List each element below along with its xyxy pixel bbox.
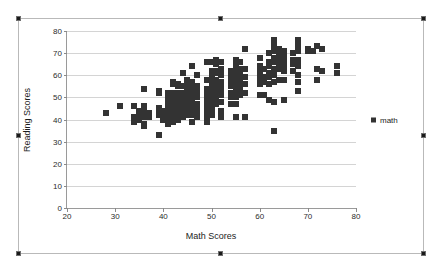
x-tick-label: 60 [255,212,264,221]
y-tick-label: 0 [58,204,62,213]
scatter-point [271,37,277,43]
scatter-point [141,86,147,92]
chart-legend[interactable]: math [371,116,398,125]
scatter-point [209,112,215,118]
y-tick-mark [64,186,67,187]
scatter-point [218,114,224,120]
selection-handle-bottom-left[interactable] [16,251,21,256]
scatter-point [194,72,200,78]
y-tick-mark [64,75,67,76]
scatter-point [334,63,340,69]
y-tick-mark [64,53,67,54]
y-tick-label: 80 [53,27,62,36]
y-tick-mark [64,142,67,143]
scatter-point [242,74,248,80]
chart-object[interactable]: Reading Scores Math Scores 0102030405060… [18,18,424,254]
y-axis-title: Reading Scores [22,88,32,152]
y-tick-label: 30 [53,137,62,146]
scatter-point [233,114,239,120]
scatter-point [281,97,287,103]
scatter-point [103,110,109,116]
y-tick-label: 70 [53,49,62,58]
scatter-point [117,103,123,109]
scatter-point [271,128,277,134]
x-tick-label: 40 [159,212,168,221]
scatter-point [194,94,200,100]
scatter-point [242,66,248,72]
selection-handle-top-right[interactable] [421,16,426,21]
scatter-point [146,114,152,120]
scatter-point [242,81,248,87]
gridline [67,120,356,121]
x-tick-label: 70 [303,212,312,221]
selection-handle-top-left[interactable] [16,16,21,21]
scatter-point [156,132,162,138]
y-tick-label: 40 [53,115,62,124]
scatter-point [295,72,301,78]
x-tick-label: 80 [352,212,361,221]
scatter-point [295,79,301,85]
scatter-point [319,68,325,74]
scatter-point [314,77,320,83]
scatter-point [295,48,301,54]
scatter-point [218,92,224,98]
scatter-point [218,59,224,65]
gridline [67,164,356,165]
scatter-point [180,70,186,76]
x-tick-label: 30 [111,212,120,221]
scatter-point [194,114,200,120]
y-tick-mark [64,97,67,98]
scatter-point [295,57,301,63]
scatter-point [218,99,224,105]
scatter-point [218,108,224,114]
gridline [67,142,356,143]
scatter-point [156,90,162,96]
scatter-point [295,37,301,43]
scatter-point [334,70,340,76]
x-axis-title: Math Scores [186,231,237,241]
scatter-point [295,88,301,94]
scatter-point [281,68,287,74]
scatter-point [257,55,263,61]
x-tick-label: 50 [207,212,216,221]
selection-handle-bottom-center[interactable] [218,251,223,256]
x-tick-label: 20 [63,212,72,221]
legend-marker-icon [371,118,376,123]
scatter-point [242,114,248,120]
scatter-point [141,123,147,129]
scatter-point [189,63,195,69]
scatter-point [204,119,210,125]
y-tick-mark [64,31,67,32]
selection-handle-middle-left[interactable] [16,133,21,138]
selection-handle-top-center[interactable] [218,16,223,21]
selection-handle-middle-right[interactable] [421,133,426,138]
scatter-point [295,63,301,69]
scatter-point [233,101,239,107]
scatter-point [237,59,243,65]
gridline [67,31,356,32]
scatter-point [281,77,287,83]
plot-area: 01020304050607080 20304050607080 [66,31,356,209]
scatter-point [218,72,224,78]
scatter-point [319,46,325,52]
y-tick-label: 20 [53,159,62,168]
gridline [67,186,356,187]
y-tick-mark [64,164,67,165]
y-tick-label: 50 [53,93,62,102]
y-tick-mark [64,120,67,121]
scatter-point [242,46,248,52]
scatter-point [271,99,277,105]
y-tick-label: 60 [53,71,62,80]
selection-handle-bottom-right[interactable] [421,251,426,256]
scatter-point [242,90,248,96]
y-tick-label: 10 [53,181,62,190]
legend-label-math: math [380,116,398,125]
